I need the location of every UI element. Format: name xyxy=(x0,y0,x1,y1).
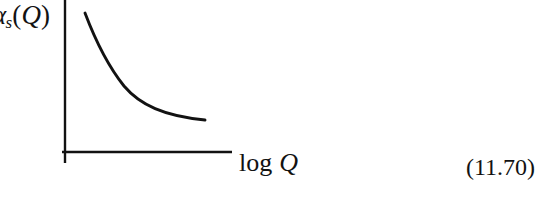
y-axis-label-paren-close: ) xyxy=(41,0,50,30)
y-axis-label: αs(Q) xyxy=(0,2,50,31)
figure-container: αs(Q) logQ (11.70) xyxy=(0,0,550,197)
x-axis-label: logQ xyxy=(239,150,298,176)
x-axis-label-variable: Q xyxy=(279,148,298,177)
alpha-s-curve xyxy=(85,13,205,120)
equation-number: (11.70) xyxy=(466,155,535,179)
y-axis-label-argument: Q xyxy=(21,0,41,30)
x-axis-label-operator: log xyxy=(239,148,272,177)
